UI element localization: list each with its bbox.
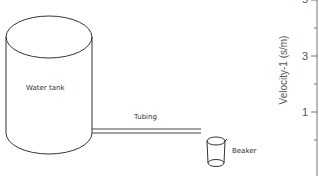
tubing-label: Tubing	[133, 113, 157, 121]
diagram-canvas: Water tank Tubing Beaker 5 3 1 Velocity-…	[0, 0, 319, 176]
beaker	[207, 137, 227, 167]
tick-label-5: 5	[302, 0, 308, 5]
tubing	[92, 129, 201, 133]
beaker-bottom	[208, 160, 224, 167]
beaker-spout	[225, 139, 227, 141]
tick-label-3: 3	[302, 50, 308, 62]
tick-label-1: 1	[302, 106, 308, 118]
tank-label: Water tank	[26, 84, 65, 92]
beaker-label: Beaker	[232, 147, 257, 155]
tank-bottom-curve	[6, 133, 92, 154]
beaker-top	[207, 137, 225, 145]
y-axis-label: Velocity-1 (s/m)	[278, 36, 289, 105]
y-axis	[311, 0, 317, 176]
tank-top-ellipse	[6, 16, 92, 58]
